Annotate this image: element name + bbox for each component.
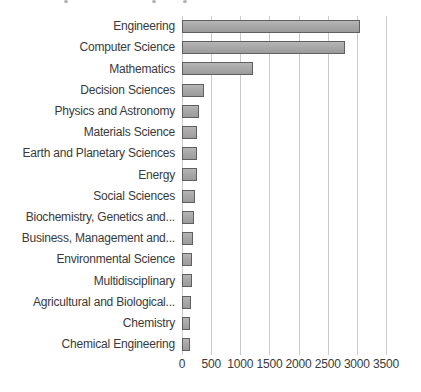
category-label: Chemistry (0, 317, 182, 330)
bar-chart-screenshot: EngineeringComputer ScienceMathematicsDe… (0, 0, 421, 392)
category-label: Physics and Astronomy (0, 105, 182, 118)
bar-row: Biochemistry, Genetics and... (0, 207, 421, 228)
bar (182, 274, 192, 287)
category-label: Environmental Science (0, 253, 182, 266)
bar-row: Chemistry (0, 313, 421, 334)
category-label: Engineering (0, 20, 182, 33)
bar (182, 317, 190, 330)
bar (182, 232, 193, 245)
x-tick-label: 1500 (256, 357, 282, 371)
cropped-title-remnant (152, 0, 156, 3)
bar-row: Computer Science (0, 37, 421, 58)
bar-rows: EngineeringComputer ScienceMathematicsDe… (0, 16, 421, 355)
bar-row: Physics and Astronomy (0, 101, 421, 122)
x-tick-label: 2000 (286, 357, 312, 371)
bar (182, 84, 204, 97)
category-label: Agricultural and Biological... (0, 296, 182, 309)
bar-row: Engineering (0, 16, 421, 37)
x-tick-label: 0 (179, 357, 185, 371)
category-label: Chemical Engineering (0, 338, 182, 351)
category-label: Decision Sciences (0, 84, 182, 97)
x-tick-label: 500 (201, 357, 220, 371)
bar-row: Energy (0, 164, 421, 185)
bar (182, 296, 191, 309)
bar-row: Business, Management and... (0, 228, 421, 249)
bar (182, 147, 197, 160)
category-label: Business, Management and... (0, 232, 182, 245)
bar (182, 126, 197, 139)
bar (182, 338, 190, 351)
x-axis: 0500100015002000250030003500 (182, 357, 387, 373)
bar (182, 190, 195, 203)
bar (182, 41, 345, 54)
bar-row: Agricultural and Biological... (0, 291, 421, 312)
x-tick-label: 2500 (315, 357, 341, 371)
category-label: Computer Science (0, 41, 182, 54)
cropped-title-remnant (64, 0, 68, 3)
x-tick-label: 3000 (344, 357, 370, 371)
bar (182, 20, 360, 33)
category-label: Mathematics (0, 63, 182, 76)
bar-row: Materials Science (0, 122, 421, 143)
bar-row: Social Sciences (0, 186, 421, 207)
category-label: Earth and Planetary Sciences (0, 147, 182, 160)
bar-row: Environmental Science (0, 249, 421, 270)
bar-row: Decision Sciences (0, 80, 421, 101)
bar-row: Multidisciplinary (0, 270, 421, 291)
x-tick-label: 3500 (373, 357, 399, 371)
bar (182, 211, 194, 224)
bar-row: Mathematics (0, 58, 421, 79)
category-label: Social Sciences (0, 190, 182, 203)
bar (182, 105, 199, 118)
bar (182, 62, 253, 75)
category-label: Materials Science (0, 126, 182, 139)
category-label: Multidisciplinary (0, 275, 182, 288)
bar-row: Earth and Planetary Sciences (0, 143, 421, 164)
category-label: Energy (0, 169, 182, 182)
bar (182, 253, 192, 266)
bar (182, 168, 197, 181)
category-label: Biochemistry, Genetics and... (0, 211, 182, 224)
x-tick-label: 1000 (227, 357, 253, 371)
bar-row: Chemical Engineering (0, 334, 421, 355)
cropped-title-remnant (183, 0, 187, 3)
